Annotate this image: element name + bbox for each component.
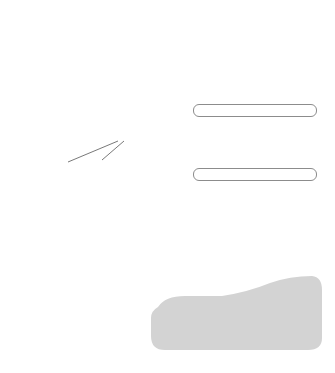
double-helix-diagram (0, 0, 335, 373)
guanine-segment (194, 169, 259, 180)
callout-pointer-line (102, 141, 124, 160)
legend-bar-adenine-thymine (193, 104, 317, 117)
thymine-segment (259, 105, 316, 116)
callout-pointer-line (68, 141, 118, 162)
cytosine-segment (259, 169, 316, 180)
legend-bar-guanine-cytosine (193, 168, 317, 181)
caption-background (151, 276, 322, 350)
adenine-segment (194, 105, 259, 116)
